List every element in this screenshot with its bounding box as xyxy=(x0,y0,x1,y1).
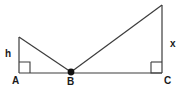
geometry-diagram-canvas xyxy=(0,0,185,90)
vertex-label-a: A xyxy=(12,76,19,86)
point-B-dot xyxy=(68,69,75,76)
segment-right-hypotenuse xyxy=(71,5,162,72)
right-angle-at-A-icon xyxy=(19,62,30,73)
vertex-label-b: B xyxy=(67,77,74,87)
right-angle-at-C-icon xyxy=(151,62,162,73)
geometry-figure: h x A B C xyxy=(0,0,185,90)
vertex-label-c: C xyxy=(164,76,171,86)
side-label-x: x xyxy=(170,39,176,49)
segment-left-hypotenuse xyxy=(19,37,71,72)
side-label-h: h xyxy=(5,49,11,59)
